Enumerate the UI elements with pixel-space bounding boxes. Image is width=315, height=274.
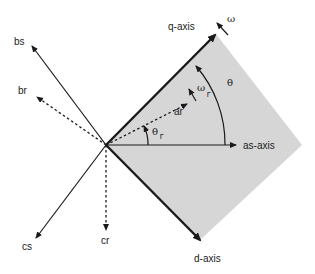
cs-axis-line bbox=[36, 145, 106, 238]
q-axis-label: q-axis bbox=[168, 21, 195, 32]
theta-r-symbol: θ bbox=[152, 126, 158, 137]
cs-label: cs bbox=[22, 241, 32, 252]
reference-frame-diagram: q-axis d-axis as-axis bs br cs cr ar ω ω… bbox=[0, 0, 315, 274]
br-label: br bbox=[18, 85, 28, 96]
theta-label: θ bbox=[227, 77, 233, 88]
ar-label: ar bbox=[174, 106, 184, 117]
omega-r-symbol: ω bbox=[197, 82, 205, 93]
shaded-dq-region bbox=[106, 34, 302, 240]
as-axis-label: as-axis bbox=[243, 140, 275, 151]
theta-r-subscript: r bbox=[159, 132, 164, 141]
omega-r-subscript: r bbox=[206, 90, 211, 99]
bs-axis-line bbox=[32, 46, 106, 145]
d-axis-label: d-axis bbox=[194, 253, 221, 264]
omega-label: ω bbox=[227, 13, 235, 24]
cr-label: cr bbox=[101, 235, 110, 246]
bs-label: bs bbox=[14, 36, 25, 47]
br-axis-line bbox=[37, 97, 106, 145]
omega-arrow bbox=[217, 23, 228, 35]
